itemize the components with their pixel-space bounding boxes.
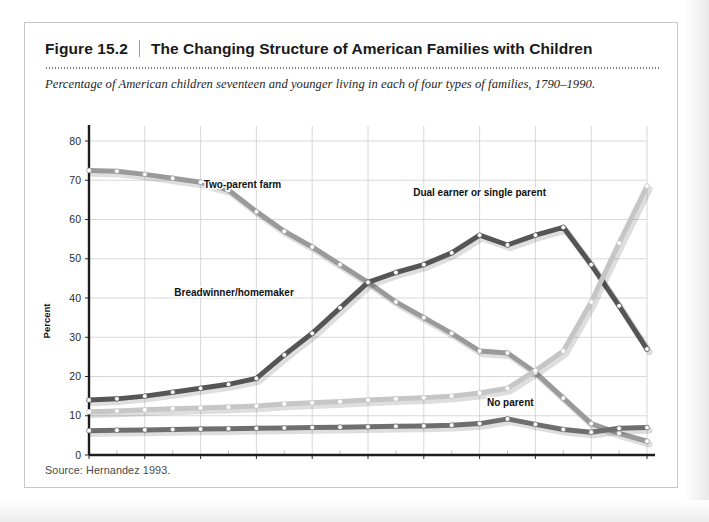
y-axis-title: Percent <box>41 303 52 339</box>
series-marker <box>282 402 287 407</box>
chart-plot-area: 01020304050607080 1790181018301850187018… <box>39 101 665 461</box>
figure-card: Figure 15.2 The Changing Structure of Am… <box>24 22 678 488</box>
page-edge-shading-right <box>685 0 709 522</box>
figure-number: Figure 15.2 <box>45 40 128 58</box>
line-chart: 01020304050607080 1790181018301850187018… <box>39 101 665 461</box>
series-marker <box>254 404 259 409</box>
y-tick-label: 20 <box>69 370 81 382</box>
page-edge-shading-bottom <box>0 500 709 522</box>
series-label-0: Two-parent farm <box>204 179 282 190</box>
series-marker <box>561 427 566 432</box>
series-marker <box>310 425 315 430</box>
series-marker <box>310 400 315 405</box>
series-marker <box>170 176 175 181</box>
series-marker <box>87 398 92 403</box>
series-marker <box>198 427 203 432</box>
series-marker <box>170 406 175 411</box>
series-marker <box>505 416 510 421</box>
figure-subtitle: Percentage of American children seventee… <box>45 77 659 92</box>
series-marker <box>589 430 594 435</box>
series-marker <box>282 229 287 234</box>
series-marker <box>617 426 622 431</box>
series-marker <box>645 184 650 189</box>
figure-title: The Changing Structure of American Famil… <box>151 40 593 58</box>
series-marker <box>394 424 399 429</box>
dotted-divider <box>45 67 659 69</box>
series-marker <box>617 241 622 246</box>
series-marker <box>421 395 426 400</box>
series-marker <box>142 427 147 432</box>
series-marker <box>394 270 399 275</box>
series-marker <box>142 407 147 412</box>
series-marker <box>254 209 259 214</box>
series-marker <box>449 250 454 255</box>
series-marker <box>338 262 343 267</box>
series-marker <box>394 396 399 401</box>
series-marker <box>115 428 120 433</box>
series-marker <box>338 399 343 404</box>
series-marker <box>338 305 343 310</box>
series-label-1: Breadwinner/homemaker <box>174 287 294 298</box>
series-label-3: No parent <box>487 397 534 408</box>
y-tick-label: 50 <box>69 252 81 264</box>
series-marker <box>198 406 203 411</box>
y-tick-label: 70 <box>69 174 81 186</box>
series-marker <box>115 169 120 174</box>
series-marker <box>589 262 594 267</box>
series-marker <box>533 368 538 373</box>
series-marker <box>226 382 231 387</box>
series-marker <box>115 409 120 414</box>
series-marker <box>142 172 147 177</box>
y-tick-label: 60 <box>69 213 81 225</box>
figure-header: Figure 15.2 The Changing Structure of Am… <box>25 23 677 58</box>
figure-source-note: Source: Hernandez 1993. <box>45 464 170 476</box>
y-axis-tick-labels: 01020304050607080 <box>69 135 81 461</box>
series-marker <box>477 421 482 426</box>
series-marker <box>645 439 650 444</box>
series-marker <box>421 315 426 320</box>
series-marker <box>645 425 650 430</box>
series-marker <box>142 394 147 399</box>
series-marker <box>394 300 399 305</box>
series-marker <box>589 421 594 426</box>
series-marker <box>421 424 426 429</box>
series-marker <box>338 425 343 430</box>
series-marker <box>561 225 566 230</box>
series-marker <box>617 303 622 308</box>
figure-title-row: Figure 15.2 The Changing Structure of Am… <box>45 37 657 58</box>
series-marker <box>505 386 510 391</box>
series-marker <box>617 431 622 436</box>
series-marker <box>198 386 203 391</box>
series-marker <box>310 245 315 250</box>
series-marker <box>87 428 92 433</box>
series-marker <box>282 353 287 358</box>
series-marker <box>226 405 231 410</box>
y-tick-label: 80 <box>69 135 81 147</box>
y-tick-label: 0 <box>75 449 81 461</box>
series-marker <box>477 391 482 396</box>
figure-title-divider <box>139 40 140 57</box>
series-marker <box>561 396 566 401</box>
series-marker <box>505 351 510 356</box>
series-marker <box>366 280 371 285</box>
series-marker <box>366 398 371 403</box>
series-marker <box>449 331 454 336</box>
series-marker <box>198 180 203 185</box>
series-marker <box>477 233 482 238</box>
series-marker <box>254 376 259 381</box>
series-marker <box>115 396 120 401</box>
series-marker <box>589 300 594 305</box>
series-marker <box>310 331 315 336</box>
series-marker <box>645 347 650 352</box>
series-marker <box>87 168 92 173</box>
series-marker <box>366 424 371 429</box>
series-marker <box>87 409 92 414</box>
series-marker <box>254 426 259 431</box>
series-marker <box>449 394 454 399</box>
y-tick-label: 30 <box>69 331 81 343</box>
series-marker <box>226 426 231 431</box>
series-marker <box>533 233 538 238</box>
y-tick-label: 40 <box>69 292 81 304</box>
chart-series-layer <box>89 170 650 444</box>
series-marker <box>561 349 566 354</box>
